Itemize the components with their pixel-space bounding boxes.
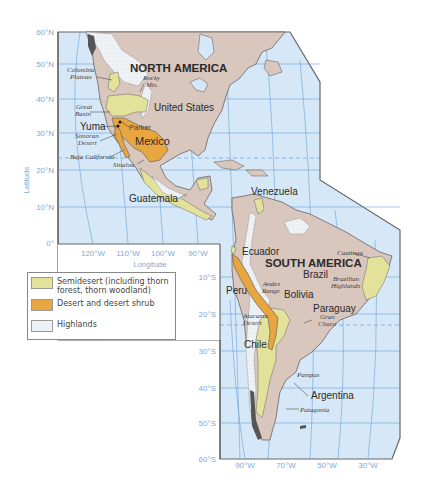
svg-text:50°W: 50°W [317, 461, 337, 470]
label-united-states: United States [154, 102, 214, 113]
legend-label: Semidesert (including thorn forest, thor… [57, 277, 175, 295]
svg-text:Plateau: Plateau [69, 73, 92, 81]
yuma-marker [117, 125, 120, 128]
label-argentina: Argentina [311, 390, 354, 401]
svg-text:Caatinga: Caatinga [337, 249, 364, 257]
svg-text:50°N: 50°N [36, 60, 54, 69]
desert-swatch [31, 299, 53, 311]
label-yuma: Yuma [80, 121, 106, 132]
desert-regions-map: 60°N 50°N 40°N 30°N 20°N 10°N 0° Latitud… [0, 0, 430, 482]
label-chile: Chile [244, 339, 267, 350]
north-latitude-ticks: 60°N 50°N 40°N 30°N 20°N 10°N 0° [36, 28, 54, 248]
svg-text:30°W: 30°W [358, 461, 378, 470]
svg-text:90°W: 90°W [235, 461, 255, 470]
svg-text:30°N: 30°N [36, 129, 54, 138]
svg-text:Basin: Basin [75, 110, 91, 118]
svg-text:40°S: 40°S [199, 384, 216, 393]
svg-text:Mts.: Mts. [145, 81, 159, 89]
svg-text:10°N: 10°N [36, 203, 54, 212]
svg-text:20°S: 20°S [199, 310, 216, 319]
label-mexico: Mexico [135, 135, 170, 147]
svg-text:Patagonia: Patagonia [299, 406, 330, 414]
label-parker: Parker [129, 123, 152, 132]
svg-text:10°S: 10°S [199, 273, 216, 282]
svg-text:70°W: 70°W [276, 461, 296, 470]
svg-text:Sinaloa: Sinaloa [113, 161, 135, 169]
legend: Semidesert (including thorn forest, thor… [27, 272, 176, 340]
south-longitude-ticks: 90°W 70°W 50°W 30°W [235, 461, 378, 470]
parker-marker [119, 121, 122, 124]
svg-text:Range: Range [261, 287, 280, 295]
svg-text:120°W: 120°W [81, 249, 106, 258]
label-north-america: NORTH AMERICA [130, 62, 227, 74]
highlands-swatch [31, 320, 53, 332]
svg-text:Desert: Desert [242, 319, 263, 327]
latitude-axis-label: Latitude [22, 167, 31, 194]
svg-text:Baja California: Baja California [70, 153, 115, 161]
svg-text:110°W: 110°W [116, 249, 140, 258]
svg-text:Chaco: Chaco [318, 320, 337, 328]
svg-text:50°S: 50°S [199, 419, 216, 428]
svg-text:Highlands: Highlands [330, 282, 360, 290]
longitude-axis-label: Longitude [134, 260, 167, 269]
svg-text:Desert: Desert [77, 139, 98, 147]
legend-item-highlands: Highlands [31, 320, 97, 332]
legend-item-semidesert: Semidesert (including thorn forest, thor… [31, 277, 175, 295]
svg-text:30°S: 30°S [199, 347, 216, 356]
legend-label: Highlands [57, 320, 97, 329]
svg-text:100°W: 100°W [151, 249, 176, 258]
svg-text:60°S: 60°S [199, 455, 216, 464]
label-guatemala: Guatemala [129, 193, 178, 204]
svg-text:0°: 0° [46, 239, 54, 248]
label-bolivia: Bolivia [284, 289, 314, 300]
label-brazil: Brazil [303, 269, 328, 280]
legend-item-desert: Desert and desert shrub [31, 299, 154, 311]
svg-text:40°N: 40°N [36, 95, 54, 104]
svg-text:20°N: 20°N [36, 166, 54, 175]
svg-text:90°W: 90°W [188, 249, 208, 258]
label-venezuela: Venezuela [251, 186, 298, 197]
legend-label: Desert and desert shrub [57, 299, 154, 308]
label-peru: Peru [226, 285, 247, 296]
label-south-america: SOUTH AMERICA [265, 257, 362, 269]
label-ecuador: Ecuador [242, 246, 280, 257]
svg-text:Pampas: Pampas [296, 371, 320, 379]
semidesert-swatch [31, 277, 53, 289]
svg-text:60°N: 60°N [36, 28, 54, 37]
